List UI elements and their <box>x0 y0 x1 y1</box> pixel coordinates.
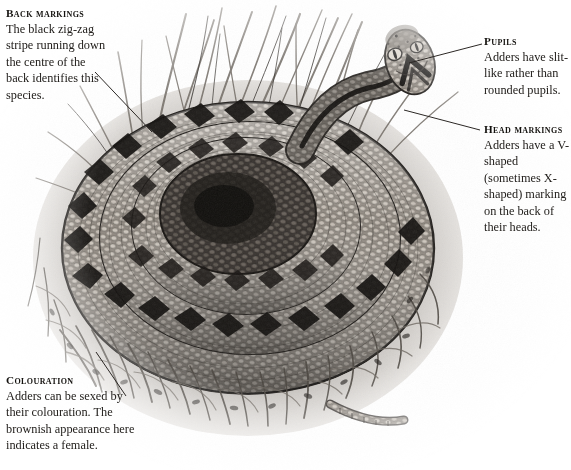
annotation-heading: Colouration <box>6 373 138 387</box>
annotation-colouration: Colouration Adders can be sexed by their… <box>6 373 138 454</box>
annotation-heading: Pupils <box>484 34 568 48</box>
annotation-text: Adders have slit-like rather than rounde… <box>484 49 568 98</box>
illustration-page: Back markings The black zig-zag stripe r… <box>0 0 571 470</box>
annotation-text: Adders have a V-shaped (sometimes X-shap… <box>484 137 570 235</box>
annotation-text: The black zig-zag stripe running down th… <box>6 21 110 103</box>
annotation-text: Adders can be sexed by their colouration… <box>6 388 138 454</box>
annotation-head-markings: Head markings Adders have a V-shaped (so… <box>484 122 570 235</box>
annotation-back-markings: Back markings The black zig-zag stripe r… <box>6 6 110 103</box>
annotation-heading: Head markings <box>484 122 570 136</box>
annotation-pupils: Pupils Adders have slit-like rather than… <box>484 34 568 98</box>
annotation-heading: Back markings <box>6 6 110 20</box>
